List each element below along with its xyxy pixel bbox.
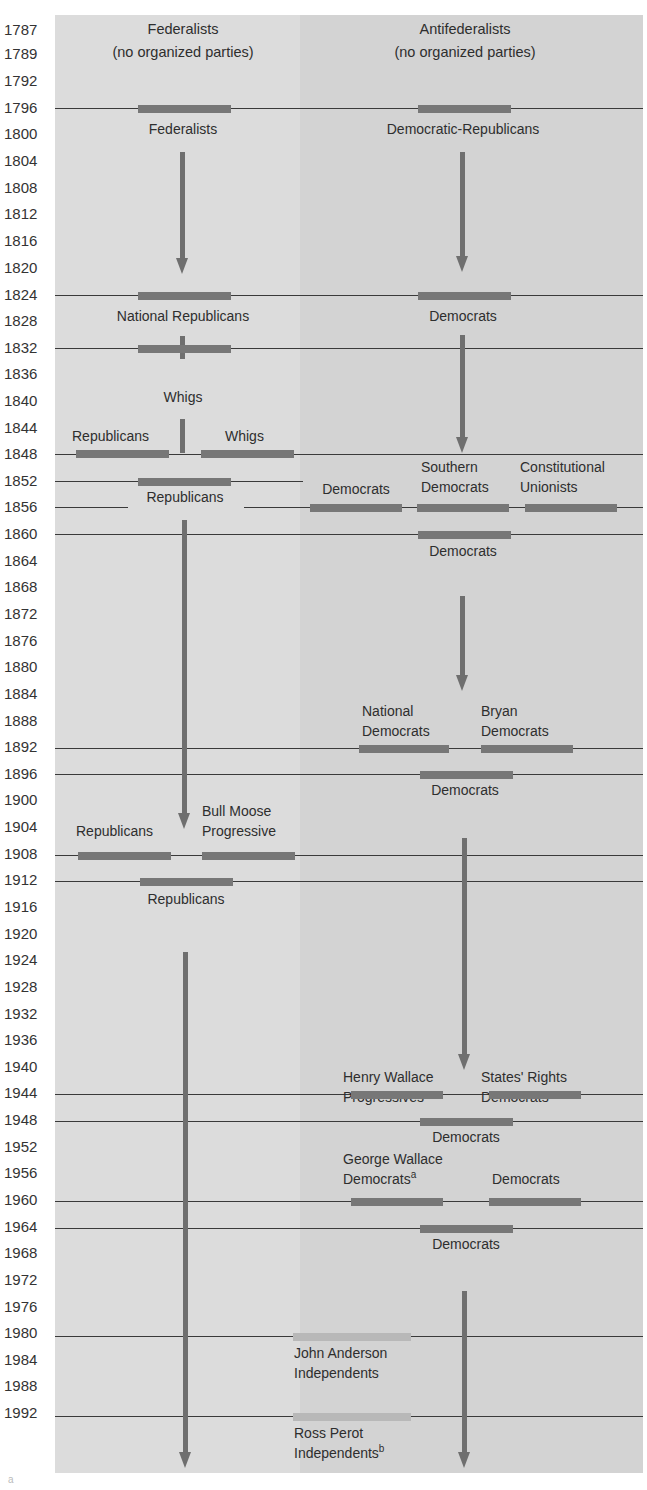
year-tick: 1896 — [4, 765, 52, 783]
label-bull-moose-line1: Bull Moose — [202, 802, 271, 821]
line-1900 — [55, 774, 643, 775]
label-bull-moose-line2: Progressive — [202, 822, 276, 841]
line-1968 — [55, 1228, 643, 1229]
label-democratic-republicans: Democratic-Republicans — [387, 120, 540, 139]
year-tick: 1976 — [4, 1298, 52, 1316]
footnote: a — [8, 1478, 14, 1490]
label-bryan-democrats-line2: Democrats — [481, 722, 549, 741]
label-whigs: Whigs — [225, 427, 264, 446]
label-constitutional-unionists-line1: Constitutional — [520, 458, 605, 477]
arrow-down-icon — [176, 258, 188, 274]
line-1864 — [55, 534, 643, 535]
year-tick: 1924 — [4, 951, 52, 969]
label-george-wallace-line1: George Wallace — [343, 1150, 443, 1169]
year-tick: 1852 — [4, 472, 52, 490]
year-tick: 1952 — [4, 1138, 52, 1156]
label-republicans-1912: Republicans — [76, 822, 153, 841]
label-bryan-democrats-line1: Bryan — [481, 702, 518, 721]
dashed-continuation — [180, 419, 185, 453]
year-tick: 1824 — [4, 286, 52, 304]
party-bar-republicans-1912 — [78, 852, 171, 860]
year-tick: 1787 — [4, 21, 52, 39]
label-democrats-1952: Democrats — [432, 1128, 500, 1147]
year-tick: 1820 — [4, 259, 52, 277]
party-bar-whigs — [138, 345, 231, 353]
year-tick: 1880 — [4, 658, 52, 676]
label-george-wallace-line2: Democratsa — [343, 1170, 416, 1189]
year-tick: 1789 — [4, 45, 52, 63]
label-states-rights-line1: States' Rights — [481, 1068, 567, 1087]
continuation-line — [182, 520, 187, 815]
arrow-down-icon — [458, 1054, 470, 1070]
year-tick: 1920 — [4, 925, 52, 943]
continuation-line — [462, 838, 467, 1058]
party-bar-democrats-1952 — [420, 1118, 513, 1126]
year-tick: 1980 — [4, 1324, 52, 1342]
label-democrats-1900: Democrats — [431, 781, 499, 800]
footnote-marker-a: a — [411, 1169, 417, 1180]
year-tick: 1900 — [4, 791, 52, 809]
party-bar-henry-wallace-progressives — [351, 1091, 443, 1099]
year-tick: 1804 — [4, 152, 52, 170]
year-tick: 1928 — [4, 978, 52, 996]
party-bar-ross-perot-independents — [293, 1413, 411, 1421]
label-republicans-1856: Republicans — [146, 488, 223, 507]
year-tick: 1848 — [4, 445, 52, 463]
party-bar-national-democrats — [359, 745, 449, 753]
label-constitutional-unionists-line2: Unionists — [520, 478, 578, 497]
party-bar-democrats-1968 — [420, 1225, 513, 1233]
label-democrats: Democrats — [429, 307, 497, 326]
continuation-line — [180, 152, 185, 262]
line-1952 — [55, 1121, 643, 1122]
arrow-down-icon — [178, 813, 190, 829]
year-tick: 1864 — [4, 552, 52, 570]
label-ross-perot-line1: Ross Perot — [294, 1424, 363, 1443]
label-democrats-1864: Democrats — [429, 542, 497, 561]
party-bar-democrats — [418, 292, 511, 300]
year-tick: 1860 — [4, 525, 52, 543]
year-tick: 1916 — [4, 898, 52, 916]
footnote-marker-b: b — [379, 1443, 385, 1454]
year-tick: 1968 — [4, 1244, 52, 1262]
party-bar-bryan-democrats — [481, 745, 573, 753]
party-bar-republicans-1916 — [140, 878, 233, 886]
arrow-down-icon — [456, 256, 468, 272]
party-bar-republicans-1856 — [138, 478, 231, 486]
label-federalists: Federalists — [149, 120, 217, 139]
year-tick: 1964 — [4, 1218, 52, 1236]
continuation-line — [462, 1291, 467, 1456]
year-tick: 1856 — [4, 498, 52, 516]
year-tick: 1796 — [4, 99, 52, 117]
label-southern-democrats-line2: Democrats — [421, 478, 489, 497]
arrow-down-icon — [456, 437, 468, 453]
left-header-sub: (no organized parties) — [112, 43, 253, 62]
year-tick: 1808 — [4, 179, 52, 197]
year-tick: 1984 — [4, 1351, 52, 1369]
right-header-title: Antifederalists — [419, 20, 510, 39]
right-header-sub: (no organized parties) — [394, 43, 535, 62]
ross-perot-independents-text: Independents — [294, 1445, 379, 1461]
year-tick: 1912 — [4, 871, 52, 889]
continuation-line — [460, 152, 465, 260]
party-bar-whigs — [201, 450, 294, 458]
year-tick: 1832 — [4, 339, 52, 357]
year-tick: 1844 — [4, 419, 52, 437]
year-tick: 1936 — [4, 1031, 52, 1049]
party-bar-democrats-1860 — [310, 504, 402, 512]
party-bar-democrats-1864 — [418, 531, 511, 539]
year-tick: 1828 — [4, 312, 52, 330]
left-panel-federalist-lineage — [55, 15, 300, 1473]
label-republicans-1916: Republicans — [147, 890, 224, 909]
year-tick: 1932 — [4, 1005, 52, 1023]
party-bar-states-rights-democrats — [489, 1091, 581, 1099]
left-header-title: Federalists — [148, 20, 219, 39]
george-wallace-democrats-text: Democrats — [343, 1171, 411, 1187]
party-bar-republicans — [76, 450, 169, 458]
party-bar-southern-democrats — [417, 504, 509, 512]
right-panel-antifederalist-lineage — [300, 15, 643, 1473]
year-tick: 1836 — [4, 365, 52, 383]
label-republicans: Republicans — [72, 427, 149, 446]
year-tick: 1884 — [4, 685, 52, 703]
label-whigs: Whigs — [164, 388, 203, 407]
label-john-anderson-line1: John Anderson — [294, 1344, 387, 1363]
